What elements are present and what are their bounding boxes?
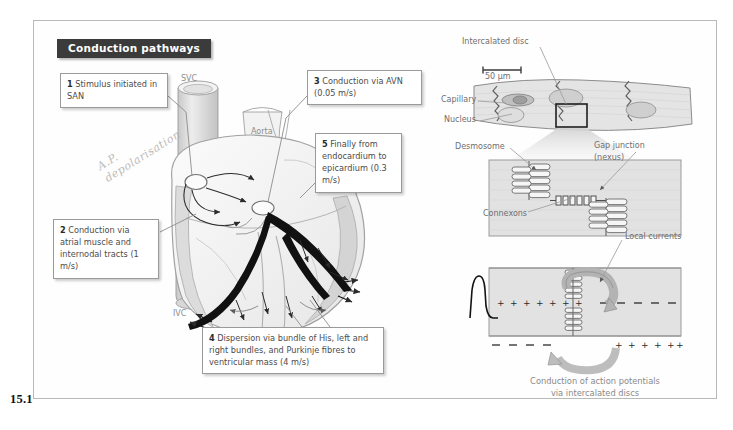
callout-step-2: 2Conduction via atrial muscle and intern… (53, 219, 159, 279)
label-aorta: Aorta (251, 127, 273, 136)
bottom-caption-line1: Conduction of action potentials (487, 375, 703, 387)
callout-step-3-text: Conduction via AVN (0.05 m/s) (314, 76, 403, 98)
callout-step-1-text: Stimulus initiated in SAN (67, 79, 157, 101)
figure-number: 15.1 (10, 392, 33, 407)
label-gap-junction-line2: (nexus) (594, 152, 645, 164)
label-capillary: Capillary (441, 95, 476, 104)
callout-step-4-text: Dispersion via bundle of His, left and r… (209, 333, 368, 367)
label-desmosome: Desmosome (455, 142, 505, 151)
callout-step-2-number: 2 (60, 225, 66, 235)
panel-title: Conduction pathways (57, 39, 211, 58)
callout-step-5: 5Finally from endocardium to epicardium … (315, 133, 402, 193)
figure-page: ++ ++ ++ + ++ ++ ++ (0, 0, 733, 430)
label-scale-bar: 50 µm (485, 72, 511, 81)
bottom-caption: Conduction of action potentials via inte… (487, 375, 703, 399)
bottom-caption-line2: via intercalated discs (487, 387, 703, 399)
label-svc: SVC (181, 74, 197, 83)
callout-step-4-number: 4 (209, 333, 215, 343)
label-gap-junction: Gap junction (nexus) (594, 140, 645, 163)
callout-step-1-number: 1 (67, 79, 73, 89)
callout-step-4: 4Dispersion via bundle of His, left and … (202, 327, 384, 374)
callout-step-1: 1Stimulus initiated in SAN (60, 73, 168, 108)
label-connexons: Connexons (483, 209, 527, 218)
callout-step-3-number: 3 (314, 76, 320, 86)
label-ivc: IVC (173, 309, 186, 318)
callout-step-5-number: 5 (322, 139, 328, 149)
label-gap-junction-line1: Gap junction (594, 140, 645, 152)
callout-step-5-text: Finally from endocardium to epicardium (… (322, 139, 387, 185)
label-intercalated-disc: Intercalated disc (462, 37, 529, 46)
label-local-currents: Local currents (625, 232, 681, 241)
label-nucleus: Nucleus (444, 115, 476, 124)
callout-step-2-text: Conduction via atrial muscle and interno… (60, 225, 139, 271)
callout-step-3: 3Conduction via AVN (0.05 m/s) (307, 70, 422, 105)
